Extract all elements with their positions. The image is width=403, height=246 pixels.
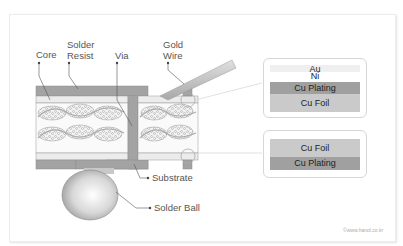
- detail-top-layers: Au Ni Cu Plating Cu Foil: [263, 58, 367, 118]
- copyright-text: ©www.hanol.co.kr: [343, 227, 383, 233]
- label-via: Via: [115, 51, 129, 61]
- layer-ni: Ni: [270, 72, 360, 81]
- pcb-cross-section-diagram: [0, 0, 403, 246]
- layer-cu-foil: Cu Foil: [270, 94, 360, 112]
- gold-wire: [160, 60, 236, 100]
- label-solder-resist-line1: Solder: [67, 40, 94, 50]
- detail-bottom-layers: Cu Foil Cu Plating: [263, 130, 367, 178]
- label-gold-wire-line2: Wire: [163, 51, 183, 61]
- label-substrate: Substrate: [152, 173, 193, 183]
- label-solder-resist-line2: Resist: [67, 51, 93, 61]
- label-gold-wire-line1: Gold: [163, 40, 183, 50]
- label-solder-ball: Solder Ball: [154, 203, 200, 213]
- solder-ball: [62, 170, 118, 220]
- layer-cu-plating: Cu Plating: [270, 157, 360, 170]
- label-core: Core: [36, 50, 57, 60]
- layer-cu-plating: Cu Plating: [270, 82, 360, 94]
- layer-cu-foil: Cu Foil: [270, 139, 360, 157]
